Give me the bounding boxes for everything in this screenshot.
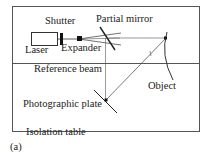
figure-caption: (a) [10, 141, 22, 152]
partial-mirror-label: Partial mirror [96, 13, 153, 24]
object-point-marker [164, 37, 167, 40]
object-label: Object [148, 80, 176, 91]
expander-icon [77, 36, 82, 41]
expander-label: Expander [61, 42, 101, 53]
photographic-plate-label: Photographic plate [23, 98, 102, 109]
shutter-label: Shutter [45, 15, 75, 26]
expanded-beam-upper [82, 33, 121, 39]
laser-label: Laser [25, 44, 48, 55]
reference-beam-label: Reference beam [34, 63, 102, 74]
isolation-table-label: Isolation table [26, 126, 86, 137]
plate-point-marker [105, 99, 108, 102]
